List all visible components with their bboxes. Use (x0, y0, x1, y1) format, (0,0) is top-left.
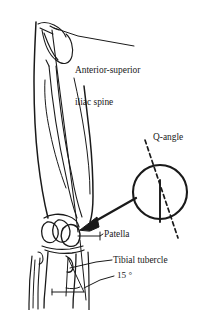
magnifier-arrow-head (80, 217, 99, 231)
tibia-lateral-border (73, 254, 76, 308)
tibial-plateau (45, 250, 84, 253)
angle-vertical-leg (66, 258, 68, 296)
q-angle-figure: Anterior-superior iliac spine Q-angle Pa… (0, 0, 200, 310)
label-q-angle: Q-angle (153, 132, 183, 143)
knee-joint-line (42, 246, 83, 249)
tibia-medial-border (44, 252, 48, 308)
label-anterior-superior-iliac-spine: Anterior-superior iliac spine (75, 43, 140, 130)
label-patella: Patella (104, 229, 130, 240)
patella-leader-line (78, 234, 103, 236)
fibula-outline (38, 258, 40, 309)
asis-label-line-1: Anterior-superior (75, 65, 140, 76)
angle-arc-15deg (66, 287, 80, 289)
label-angle-value: 15 ° (117, 270, 132, 281)
patella-outline (61, 225, 80, 247)
leg-anterior-contour (34, 22, 48, 218)
asis-label-line-2: iliac spine (75, 97, 140, 108)
femur-proximal-curve (46, 60, 49, 66)
magnifier-arrow-shaft (92, 198, 136, 223)
soft-tissue-inner-line (45, 80, 66, 188)
lower-leg-inner-line (33, 260, 35, 308)
lower-leg-contour-right (88, 252, 89, 310)
lower-leg-contour-left (29, 256, 32, 310)
label-tibial-tubercle: Tibial tubercle (113, 255, 168, 266)
